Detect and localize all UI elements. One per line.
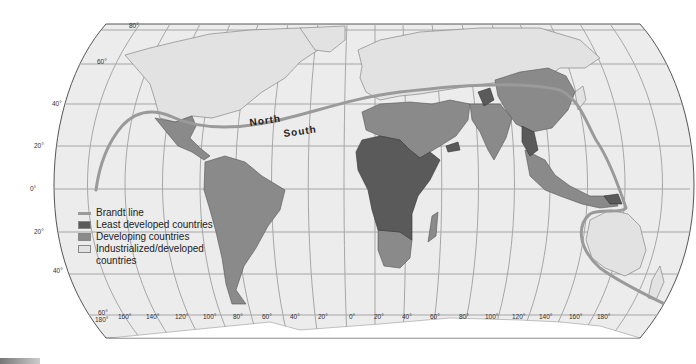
industrialized-swatch <box>78 245 91 253</box>
lat-label: 80° <box>129 22 139 29</box>
developing-swatch <box>78 233 91 241</box>
lat-label: 40° <box>52 100 62 107</box>
lat-label: 40° <box>53 267 63 274</box>
lon-label: 120° <box>175 313 189 320</box>
lon-label: 60° <box>262 313 272 320</box>
lon-label: 100° <box>203 313 217 320</box>
world-map: North South 80° 60° 40° 20° 0° 20° 40° 6… <box>0 0 696 364</box>
legend-item-industrialized: Industrialized/developed <box>78 243 213 255</box>
lon-label: 100° <box>485 313 499 320</box>
legend-label: Developing countries <box>96 231 189 243</box>
brandt-line-swatch <box>78 212 91 215</box>
lon-label: 80° <box>459 313 469 320</box>
lon-label: 80° <box>233 313 243 320</box>
lon-label: 20° <box>374 313 384 320</box>
lon-label: 0° <box>349 313 356 320</box>
lon-label: 40° <box>402 313 412 320</box>
lon-label: 180° <box>597 313 611 320</box>
lat-label: 60° <box>98 309 108 316</box>
legend-label: countries <box>96 255 137 267</box>
legend-item-developing: Developing countries <box>78 231 213 243</box>
lon-label: 20° <box>318 313 328 320</box>
lon-label: 140° <box>146 313 160 320</box>
legend-label: Industrialized/developed <box>96 243 204 255</box>
lon-label: 40° <box>290 313 300 320</box>
lon-label: 120° <box>512 313 526 320</box>
legend-item-industrialized-cont: countries <box>78 255 213 267</box>
legend-item-least-developed: Least developed countries <box>78 219 213 231</box>
least-developed-swatch <box>78 221 91 229</box>
lon-label: 160° <box>569 313 583 320</box>
lon-label: 180° <box>95 316 109 323</box>
legend-item-brandt-line: Brandt line <box>78 207 213 219</box>
lon-label: 140° <box>539 313 553 320</box>
bottom-edge-bar <box>0 358 40 364</box>
lat-label: 0° <box>30 185 37 192</box>
lat-label: 60° <box>97 58 107 65</box>
legend-label: Brandt line <box>96 207 144 219</box>
lon-label: 60° <box>430 313 440 320</box>
map-legend: Brandt line Least developed countries De… <box>78 207 213 267</box>
lat-label: 20° <box>34 142 44 149</box>
legend-label: Least developed countries <box>96 219 213 231</box>
lon-label: 160° <box>118 313 132 320</box>
lat-label: 20° <box>34 228 44 235</box>
